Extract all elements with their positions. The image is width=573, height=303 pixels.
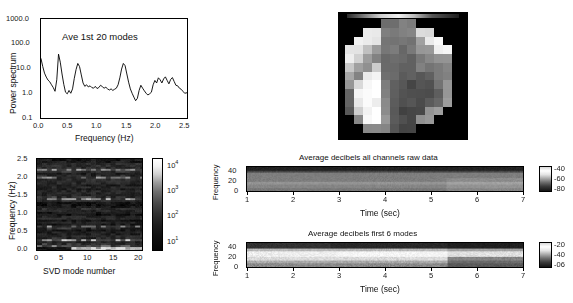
panel-c-cbtick-2: 102 (167, 210, 178, 219)
pixel-map-cell (399, 72, 408, 81)
pixel-map-cell (434, 19, 443, 28)
pixel-map-cell (363, 98, 372, 107)
svd-spectrogram-image (36, 158, 143, 251)
panel-e-xtick-4: 5 (429, 272, 433, 280)
pixel-map-cell (399, 19, 408, 28)
pixel-map-background (338, 12, 468, 140)
pixel-map-cell (372, 28, 381, 37)
pixel-map-cell (452, 89, 461, 98)
pixel-map-cell (443, 63, 452, 72)
pixel-map-cell (345, 45, 354, 54)
pixel-map-cell (443, 115, 452, 124)
pixel-map-cell (416, 107, 425, 116)
pixel-map-cell (345, 54, 354, 63)
pixel-map-cell (381, 54, 390, 63)
pixel-map-cell (399, 63, 408, 72)
panel-c-xtick-1: 5 (59, 254, 63, 262)
pixel-map-cell (381, 89, 390, 98)
pixel-map-cell (425, 80, 434, 89)
pixel-map-cell (452, 28, 461, 37)
pixel-map-cell (425, 98, 434, 107)
pixel-map-cell (381, 124, 390, 133)
panel-c-ylabel: Frequency (Hz) (8, 181, 17, 240)
panel-c-ytick-1: 2.0 (17, 173, 27, 181)
modes-colorbar (539, 242, 552, 268)
panel-d-ytick-2: 0 (234, 187, 238, 195)
pixel-map-cell (443, 80, 452, 89)
pixel-map-cell (363, 28, 372, 37)
pixel-map-cell (452, 37, 461, 46)
pixel-map-cell (416, 98, 425, 107)
pixel-map-cell (345, 37, 354, 46)
pixel-map-cell (390, 107, 399, 116)
pixel-map-cell (354, 37, 363, 46)
pixel-map-cell (381, 98, 390, 107)
pixel-map-cell (345, 124, 354, 133)
pixel-map-cell (372, 54, 381, 63)
pixel-map-cell (443, 98, 452, 107)
pixel-map-cell (372, 63, 381, 72)
pixel-map-cell (345, 80, 354, 89)
panel-a-xtick-4: 2.0 (150, 122, 160, 130)
panel-e-xtick-0: 1 (245, 272, 249, 280)
pixel-map-cell (434, 80, 443, 89)
pixel-map-cell (363, 72, 372, 81)
pixel-map-cell (425, 115, 434, 124)
pixel-map-cell (399, 45, 408, 54)
pixel-map-cell (345, 28, 354, 37)
pixel-map-cell (390, 80, 399, 89)
pixel-map-cell (399, 89, 408, 98)
pixel-map-cell (407, 107, 416, 116)
panel-e-xtick-2: 3 (337, 272, 341, 280)
pixel-map-cell (354, 28, 363, 37)
pixel-map-cell (443, 28, 452, 37)
panel-d-xtick-2: 3 (337, 196, 341, 204)
pixel-map-cell (416, 124, 425, 133)
panel-e-title: Average decibels first 6 modes (308, 230, 417, 238)
pixel-map-cell (416, 80, 425, 89)
panel-d-title: Average decibels all channels raw data (299, 154, 438, 162)
pixel-map-cell (416, 37, 425, 46)
pixel-map-cell (354, 124, 363, 133)
pixel-map-cell (443, 45, 452, 54)
panel-c-xtick-2: 10 (83, 254, 91, 262)
pixel-map-cell (345, 98, 354, 107)
pixel-map-cell (363, 19, 372, 28)
pixel-map-cell (416, 115, 425, 124)
panel-a-xtick-0: 0.0 (33, 122, 43, 130)
pixel-map-cell (363, 80, 372, 89)
pixel-map-cell (452, 80, 461, 89)
panel-d-ytick-0: 40 (228, 167, 236, 175)
pixel-map-cell (416, 63, 425, 72)
pixel-map-cell (434, 107, 443, 116)
pixel-map-cell (354, 89, 363, 98)
pixel-map-cell (345, 107, 354, 116)
panel-a-xlabel: Frequency (Hz) (75, 134, 134, 143)
panel-d-cbtick-1: -60 (554, 175, 565, 183)
panel-a-annotation: Ave 1st 20 modes (62, 31, 138, 42)
pixel-map-cell (416, 28, 425, 37)
panel-d-xtick-1: 2 (291, 196, 295, 204)
panel-d-xlabel: Time (sec) (360, 209, 400, 218)
panel-e-ytick-2: 0 (234, 263, 238, 271)
panel-e-ylabel: Frequency (212, 241, 220, 276)
pixel-map-cell (381, 80, 390, 89)
pixel-map-cell (407, 98, 416, 107)
pixel-map-cell (452, 72, 461, 81)
panel-c-ytick-0: 2.5 (17, 155, 27, 163)
pixel-map-cell (434, 98, 443, 107)
panel-d-cbtick-2: -80 (554, 185, 565, 193)
pixel-map-cell (425, 19, 434, 28)
pixel-map-cell (443, 124, 452, 133)
pixel-map-cell (372, 124, 381, 133)
pixel-map-cell (354, 19, 363, 28)
pixel-map-cell (399, 107, 408, 116)
raw-spectrogram-image (246, 166, 524, 192)
pixel-map-cell (381, 63, 390, 72)
svd-colorbar (152, 158, 163, 251)
pixel-map-cell (381, 19, 390, 28)
panel-a-xtick-1: 0.5 (62, 122, 72, 130)
panel-c-ytick-3: 1.0 (17, 209, 27, 217)
pixel-map-cell (363, 107, 372, 116)
panel-c-cbtick-1: 103 (167, 185, 178, 194)
